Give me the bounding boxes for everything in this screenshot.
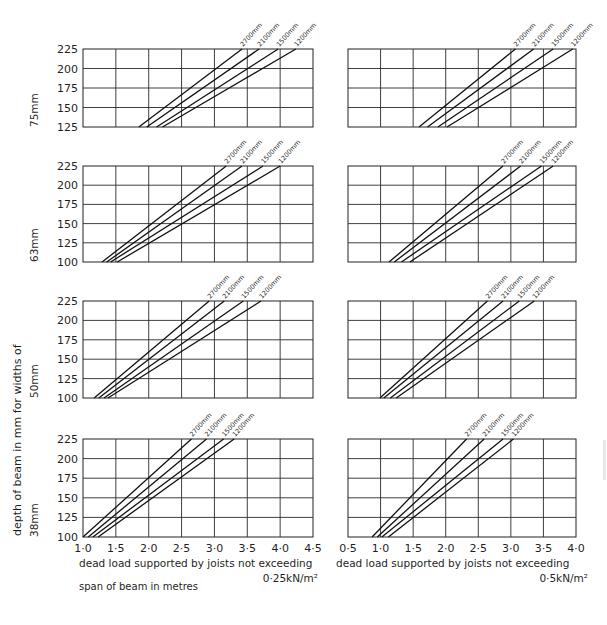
y-tick-label: 175: [57, 198, 78, 211]
y-tick-label: 225: [57, 295, 78, 308]
series-line-2700mm: [83, 439, 191, 537]
series-line-2700mm: [380, 301, 487, 398]
chart-panel: 22520017515012510038mm2700mm2100mm1500mm…: [28, 411, 313, 544]
y-tick-label: 100: [57, 392, 78, 405]
width-label: 38mm: [28, 503, 40, 537]
series-line-1500mm: [93, 439, 224, 537]
x-axis-title: span of beam in metres: [79, 581, 198, 592]
x-tick-label: 1·5: [107, 542, 125, 555]
series-line-1500mm: [104, 301, 243, 398]
series-line-1200mm: [108, 301, 261, 398]
x-tick-label: 1·0: [74, 542, 92, 555]
series-line-2100mm: [377, 439, 484, 537]
series-line-2100mm: [99, 301, 225, 398]
y-tick-label: 125: [57, 237, 78, 250]
x-tick-label: 1·5: [404, 542, 422, 555]
x-tick-label: 4·5: [304, 542, 322, 555]
y-tick-label: 150: [57, 218, 78, 231]
x-tick-label: 3·5: [535, 542, 553, 555]
chart-panel: 22520017515012510050mm2700mm2100mm1500mm…: [28, 273, 313, 405]
y-tick-label: 200: [57, 314, 78, 327]
width-label: 63mm: [28, 228, 40, 262]
series-line-1200mm: [98, 439, 234, 537]
chart-panel: 22520017515012510063mm2700mm2100mm1500mm…: [28, 138, 313, 269]
load-caption-left-line1: dead load supported by joists not exceed…: [79, 557, 312, 569]
y-tick-label: 225: [57, 433, 78, 446]
series-line-1500mm: [401, 166, 541, 262]
y-tick-label: 125: [57, 511, 78, 524]
x-tick-label: 2·5: [173, 542, 191, 555]
series-line-1500mm: [111, 166, 263, 262]
scan-edge-mark: [603, 440, 606, 480]
series-line-1200mm: [396, 301, 534, 398]
width-label: 50mm: [28, 364, 40, 398]
y-tick-label: 200: [57, 453, 78, 466]
chart-panel: 2700mm2100mm1500mm1200mm: [348, 138, 576, 262]
y-tick-label: 175: [57, 472, 78, 485]
series-line-2100mm: [88, 439, 206, 537]
chart-frame: [348, 301, 576, 398]
y-tick-label: 150: [57, 102, 78, 115]
series-line-1200mm: [410, 166, 553, 262]
y-tick-label: 225: [57, 43, 78, 56]
series-line-1500mm: [382, 439, 503, 537]
x-tick-label: 2·0: [437, 542, 455, 555]
x-tick-label: 3·0: [206, 542, 224, 555]
series-line-1200mm: [117, 166, 280, 262]
y-tick-label: 125: [57, 121, 78, 134]
width-label: 75mm: [28, 93, 40, 127]
series-line-1500mm: [390, 301, 519, 398]
x-tick-label: 2·5: [470, 542, 488, 555]
x-tick-label: 1·0: [372, 542, 390, 555]
chart-panel: 2700mm2100mm1500mm1200mm: [348, 273, 576, 398]
load-caption-left-line2: 0·25kN/m²: [263, 572, 318, 584]
load-caption-right-line1: dead load supported by joists not exceed…: [336, 557, 569, 569]
chart-frame: [348, 166, 576, 262]
chart-panel: 2700mm2100mm1500mm1200mm: [348, 21, 595, 127]
x-tick-label: 3·5: [239, 542, 257, 555]
x-tick-label: 4·0: [567, 542, 585, 555]
x-tick-label: 0·5: [339, 542, 357, 555]
load-caption-right-line2: 0·5kN/m²: [539, 572, 588, 584]
y-tick-label: 125: [57, 373, 78, 386]
chart-panel: 22520017515012575mm2700mm2100mm1500mm120…: [28, 21, 318, 134]
y-tick-label: 225: [57, 160, 78, 173]
y-tick-label: 200: [57, 179, 78, 192]
y-tick-label: 175: [57, 82, 78, 95]
series-line-2100mm: [384, 301, 503, 398]
x-tick-label: 4·0: [271, 542, 289, 555]
y-axis-title: depth of beam in mm for widths of: [11, 343, 24, 536]
series-line-2100mm: [107, 166, 242, 262]
y-tick-label: 175: [57, 334, 78, 347]
series-line-1200mm: [388, 439, 513, 537]
y-tick-label: 100: [57, 256, 78, 269]
y-tick-label: 150: [57, 492, 78, 505]
series-line-2700mm: [102, 166, 226, 262]
chart-frame: [348, 439, 576, 537]
beam-span-charts: 22520017515012575mm2700mm2100mm1500mm120…: [0, 0, 607, 625]
chart-panel: 2700mm2100mm1500mm1200mm: [348, 411, 576, 537]
x-tick-label: 2·0: [140, 542, 158, 555]
y-tick-label: 200: [57, 63, 78, 76]
x-tick-label: 3·0: [502, 542, 520, 555]
series-line-2700mm: [372, 439, 466, 537]
series-line-2700mm: [94, 301, 209, 398]
y-tick-label: 150: [57, 353, 78, 366]
chart-panels: 22520017515012575mm2700mm2100mm1500mm120…: [28, 21, 595, 555]
